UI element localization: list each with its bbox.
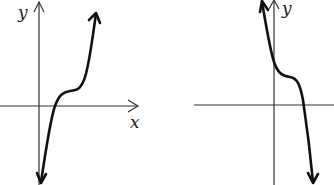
graphs-figure: y x y <box>0 0 334 185</box>
right-curve <box>262 2 313 182</box>
right-y-label: y <box>281 0 292 18</box>
left-curve <box>41 14 96 182</box>
left-y-label: y <box>17 2 28 22</box>
right-graph: y <box>194 0 334 185</box>
left-graph: y x <box>0 2 140 185</box>
left-x-label: x <box>130 112 140 132</box>
